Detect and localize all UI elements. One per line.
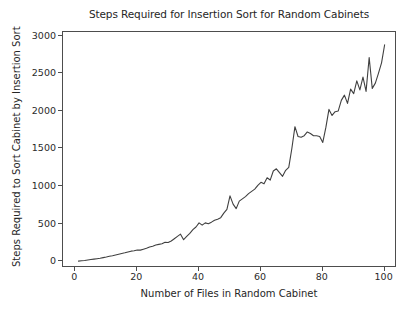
y-tick-label: 500: [38, 217, 56, 228]
x-tick-mark: [136, 267, 137, 271]
plot-area: [62, 31, 396, 267]
y-tick-mark: [58, 72, 62, 73]
y-tick-mark: [58, 185, 62, 186]
x-tick-mark: [74, 267, 75, 271]
y-tick-label: 2500: [32, 67, 56, 78]
x-tick-label: 0: [71, 271, 77, 282]
y-tick-mark: [58, 147, 62, 148]
series-polyline: [78, 45, 384, 261]
x-tick-mark: [384, 267, 385, 271]
x-tick-mark: [322, 267, 323, 271]
x-tick-label: 60: [254, 271, 266, 282]
x-tick-mark: [198, 267, 199, 271]
y-tick-label: 1500: [32, 142, 56, 153]
x-axis-tick-labels: 020406080100: [0, 271, 415, 287]
y-tick-mark: [58, 110, 62, 111]
y-tick-mark: [58, 35, 62, 36]
x-axis-label: Number of Files in Random Cabinet: [62, 288, 396, 299]
y-tick-mark: [58, 260, 62, 261]
y-axis-tick-labels: 050010001500200025003000: [22, 0, 56, 310]
y-tick-label: 0: [50, 255, 56, 266]
y-tick-label: 2000: [32, 104, 56, 115]
x-tick-label: 40: [192, 271, 204, 282]
x-tick-label: 100: [375, 271, 393, 282]
x-tick-mark: [260, 267, 261, 271]
data-line-series: [63, 32, 397, 268]
chart-title: Steps Required for Insertion Sort for Ra…: [62, 8, 396, 20]
y-tick-label: 1000: [32, 180, 56, 191]
y-tick-mark: [58, 223, 62, 224]
figure-canvas: Steps Required for Insertion Sort for Ra…: [0, 0, 415, 310]
y-tick-label: 3000: [32, 29, 56, 40]
x-tick-label: 80: [316, 271, 328, 282]
x-tick-label: 20: [130, 271, 142, 282]
